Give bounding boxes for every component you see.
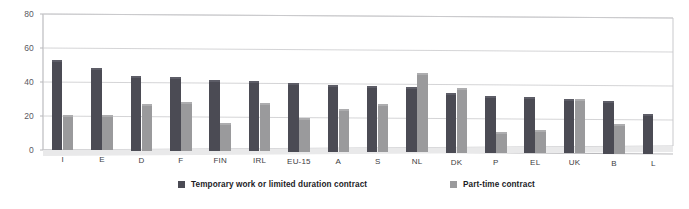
bar-face (328, 87, 339, 152)
x-axis-tick-E: E (82, 155, 122, 164)
y-axis-tick-0: 0 (6, 145, 34, 155)
bar-top-cap (288, 83, 299, 85)
bar-face (102, 117, 113, 150)
y-axis-tick-80: 80 (6, 9, 34, 19)
bar-UK-parttime[interactable] (575, 101, 586, 154)
bar-DK-parttime[interactable] (457, 90, 468, 153)
bar-face (209, 82, 220, 151)
bar-face (63, 117, 74, 150)
y-axis-tick-20: 20 (6, 111, 34, 121)
bar-face (485, 98, 496, 153)
bar-face (299, 120, 310, 151)
bar-B-parttime[interactable] (614, 126, 625, 154)
chart-legend: Temporary work or limited duration contr… (0, 176, 689, 200)
bar-EU-15-parttime[interactable] (299, 120, 310, 151)
bar-top-cap (131, 76, 142, 78)
bar-top-cap (142, 104, 153, 106)
plot-area: 020406080 IEDFFINIRLEU-15ASNLDKPELUKBL (0, 0, 689, 172)
x-axis-tick-DK: DK (436, 158, 476, 167)
bar-top-cap (524, 97, 535, 99)
bar-top-cap (299, 118, 310, 120)
bar-face (643, 116, 654, 154)
bar-top-cap (52, 60, 63, 62)
bar-NL-parttime[interactable] (417, 75, 428, 152)
x-axis-tick-NL: NL (397, 157, 437, 166)
bar-top-cap (575, 99, 586, 101)
bar-top-cap (378, 104, 389, 106)
bar-face (339, 111, 350, 152)
bar-EU-15-temporary[interactable] (288, 85, 299, 151)
bar-top-cap (446, 93, 457, 95)
bar-top-cap (102, 115, 113, 117)
bar-IRL-temporary[interactable] (249, 83, 260, 151)
bar-face (535, 132, 546, 153)
bar-top-cap (260, 103, 271, 105)
bar-DK-temporary[interactable] (446, 95, 457, 153)
bar-face (564, 101, 575, 154)
x-axis-tick-I: I (43, 155, 83, 164)
bar-IRL-parttime[interactable] (260, 105, 271, 151)
bar-A-parttime[interactable] (339, 111, 350, 152)
y-axis-tick-60: 60 (6, 43, 34, 53)
bar-top-cap (209, 80, 220, 82)
x-axis-tick-EL: EL (515, 158, 555, 167)
bar-face (457, 90, 468, 153)
bar-S-parttime[interactable] (378, 106, 389, 152)
bar-E-temporary[interactable] (91, 70, 102, 150)
bar-top-cap (220, 123, 231, 125)
bar-face (603, 103, 614, 154)
bar-EL-parttime[interactable] (535, 132, 546, 153)
bar-D-temporary[interactable] (131, 78, 142, 150)
bar-L-temporary[interactable] (643, 116, 654, 154)
x-axis-tick-L: L (633, 159, 673, 168)
bar-D-parttime[interactable] (142, 106, 153, 151)
bar-face (52, 62, 63, 150)
bar-F-parttime[interactable] (181, 104, 192, 151)
bar-A-temporary[interactable] (328, 87, 339, 152)
bar-P-parttime[interactable] (496, 134, 507, 153)
bar-chart: 020406080 IEDFFINIRLEU-15ASNLDKPELUKBL T… (0, 0, 689, 209)
bar-face (249, 83, 260, 151)
bar-top-cap (249, 81, 260, 83)
bar-I-parttime[interactable] (63, 117, 74, 150)
x-axis-tick-S: S (358, 157, 398, 166)
legend-item-temporary-work[interactable]: Temporary work or limited duration contr… (178, 180, 367, 189)
bar-S-temporary[interactable] (367, 88, 378, 152)
bar-top-cap (603, 101, 614, 103)
bar-top-cap (367, 86, 378, 88)
bar-top-cap (328, 85, 339, 87)
x-axis-tick-FIN: FIN (200, 156, 240, 165)
bar-top-cap (91, 68, 102, 70)
bar-top-cap (63, 115, 74, 117)
bar-top-cap (496, 132, 507, 134)
bar-FIN-parttime[interactable] (220, 125, 231, 151)
dark-square-icon (178, 181, 185, 188)
bar-face (524, 99, 535, 153)
x-axis-tick-P: P (476, 158, 516, 167)
bar-face (131, 78, 142, 150)
bar-UK-temporary[interactable] (564, 101, 575, 154)
bar-top-cap (457, 88, 468, 90)
bar-top-cap (535, 130, 546, 132)
y-axis-tick-40: 40 (6, 77, 34, 87)
bar-face (406, 89, 417, 152)
bar-face (575, 101, 586, 154)
bar-face (417, 75, 428, 152)
bar-I-temporary[interactable] (52, 62, 63, 150)
bar-face (614, 126, 625, 154)
bar-F-temporary[interactable] (170, 79, 181, 150)
bar-NL-temporary[interactable] (406, 89, 417, 152)
bar-FIN-temporary[interactable] (209, 82, 220, 151)
legend-item-part-time[interactable]: Part-time contract (450, 180, 535, 189)
x-axis-tick-IRL: IRL (240, 156, 280, 165)
bar-face (181, 104, 192, 151)
bar-top-cap (614, 124, 625, 126)
bar-face (170, 79, 181, 150)
bar-face (378, 106, 389, 152)
bar-EL-temporary[interactable] (524, 99, 535, 153)
bar-P-temporary[interactable] (485, 98, 496, 153)
bar-top-cap (485, 96, 496, 98)
bar-face (367, 88, 378, 152)
bar-B-temporary[interactable] (603, 103, 614, 154)
bar-E-parttime[interactable] (102, 117, 113, 150)
